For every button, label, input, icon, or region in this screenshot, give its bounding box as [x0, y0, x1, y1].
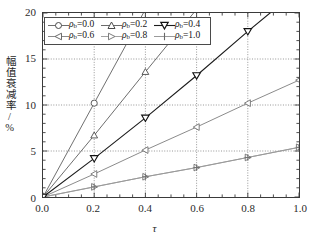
legend-label-rho-0-2: ρb=0.2 — [122, 20, 147, 30]
legend-item-rho-0-8[interactable]: ρb=0.8 — [101, 31, 154, 42]
triangle-left-open-icon — [48, 31, 69, 42]
triangle-up-open-icon — [101, 20, 122, 31]
x-tick-label-1: 0.2 — [73, 203, 113, 214]
legend-item-rho-0-2[interactable]: ρb=0.2 — [101, 20, 154, 31]
x-tick-label-3: 0.6 — [177, 203, 217, 214]
triangle-down-open-icon — [154, 20, 175, 31]
x-tick-label-4: 0.8 — [228, 203, 268, 214]
x-tick-label-5: 1.0 — [280, 203, 309, 214]
legend-item-rho-0-0[interactable]: ρb=0.0 — [48, 20, 101, 31]
legend-row-2: ρb=0.6 ρb=0.8 ρb=1.0 — [48, 31, 207, 42]
y-tick-label-15: 15 — [10, 53, 36, 64]
legend-item-rho-1-0[interactable]: ρb=1.0 — [154, 31, 207, 42]
x-tick-label-2: 0.4 — [125, 203, 165, 214]
triangle-right-open-icon — [101, 31, 122, 42]
circle-open-icon — [48, 20, 69, 31]
legend-item-rho-0-6[interactable]: ρb=0.6 — [48, 31, 101, 42]
legend-box: ρb=0.0 ρb=0.2 ρb=0.4 — [44, 17, 211, 45]
y-tick-label-10: 10 — [10, 100, 36, 111]
chart-figure: 幅值衰减率/% 20 15 10 5 0 0.0 0.2 0.4 0.6 0.8… — [0, 0, 309, 245]
legend-label-rho-0-8: ρb=0.8 — [122, 31, 147, 41]
legend-label-rho-0-4: ρb=0.4 — [175, 20, 200, 30]
plus-icon — [154, 31, 175, 42]
y-tick-label-20: 20 — [10, 7, 36, 18]
legend-label-rho-1-0: ρb=1.0 — [175, 31, 200, 41]
y-tick-label-5: 5 — [10, 146, 36, 157]
x-axis-title: τ — [0, 222, 309, 234]
x-tick-label-0: 0.0 — [22, 203, 62, 214]
legend-row-1: ρb=0.0 ρb=0.2 ρb=0.4 — [48, 20, 207, 31]
legend-label-rho-0-0: ρb=0.0 — [69, 20, 94, 30]
legend-label-rho-0-6: ρb=0.6 — [69, 31, 94, 41]
legend-item-rho-0-4[interactable]: ρb=0.4 — [154, 20, 207, 31]
